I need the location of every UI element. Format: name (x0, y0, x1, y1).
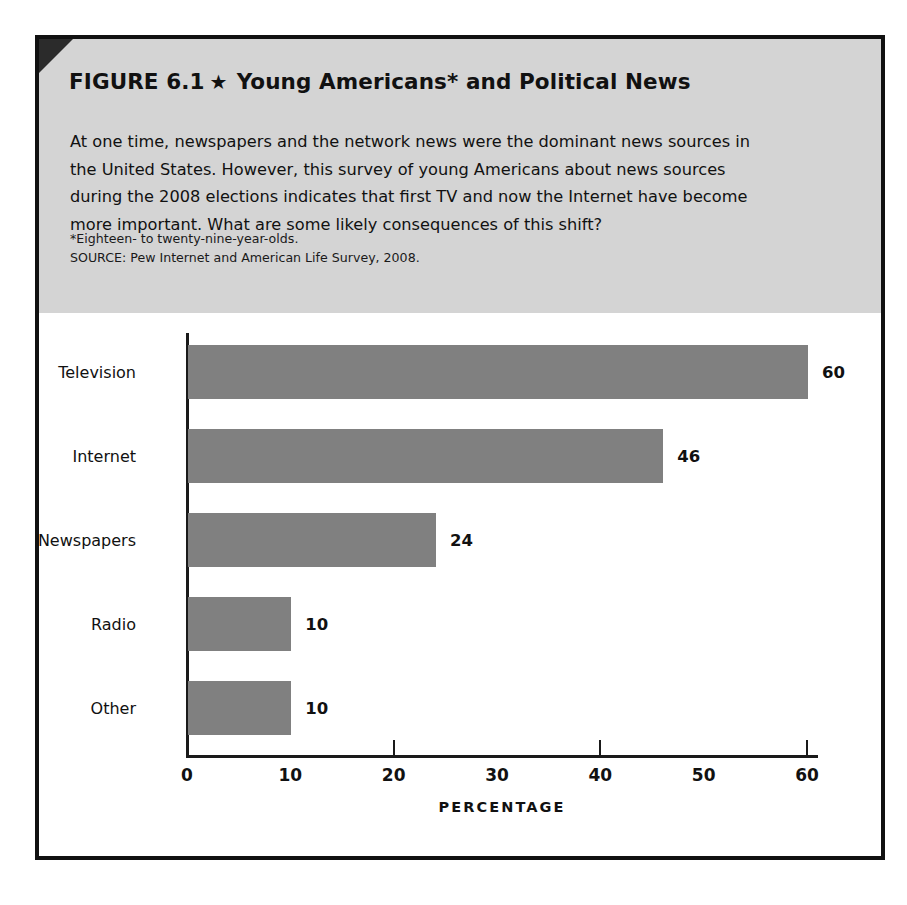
bar-value-label: 10 (305, 615, 328, 634)
bar-rect (188, 429, 663, 483)
figure-frame: FIGURE 6.1★Young Americans* and Politica… (35, 35, 885, 860)
x-tick-label: 10 (278, 765, 302, 785)
figure-source: SOURCE: Pew Internet and American Life S… (70, 249, 420, 268)
bar-row: Newspapers24 (39, 513, 881, 567)
bar-row: Television60 (39, 345, 881, 399)
bar-value-label: 60 (822, 363, 845, 382)
bar-rect (188, 597, 291, 651)
x-tick-label: 50 (692, 765, 716, 785)
figure-number: FIGURE 6.1 (69, 69, 205, 94)
figure-footnote: *Eighteen- to twenty-nine-year-olds. (70, 230, 420, 249)
bar-value-label: 24 (450, 531, 473, 550)
bar-rect (188, 681, 291, 735)
bar-row: Other10 (39, 681, 881, 735)
bar-category-label: Radio (91, 615, 136, 634)
bar-category-label: Other (91, 699, 136, 718)
figure-description: At one time, newspapers and the network … (70, 128, 770, 238)
corner-fold-decoration (39, 39, 73, 73)
bar-row: Internet46 (39, 429, 881, 483)
x-axis-line (186, 755, 818, 758)
x-tick-mark (806, 740, 808, 755)
bar-category-label: Internet (72, 447, 136, 466)
bar-category-label: Television (58, 363, 136, 382)
bar-value-label: 46 (677, 447, 700, 466)
bar-rect (188, 345, 808, 399)
x-tick-label: 30 (485, 765, 509, 785)
x-tick-label: 20 (382, 765, 406, 785)
star-icon: ★ (205, 70, 233, 94)
bar-row: Radio10 (39, 597, 881, 651)
bar-chart: Television60Internet46Newspapers24Radio1… (39, 313, 881, 856)
x-tick-label: 40 (588, 765, 612, 785)
x-tick-label: 60 (795, 765, 819, 785)
figure-title-text: Young Americans* and Political News (233, 69, 691, 94)
figure-title: FIGURE 6.1★Young Americans* and Politica… (69, 69, 691, 94)
x-axis-title: PERCENTAGE (186, 799, 818, 815)
x-tick-mark (599, 740, 601, 755)
figure-notes: *Eighteen- to twenty-nine-year-olds. SOU… (70, 230, 420, 267)
bar-value-label: 10 (305, 699, 328, 718)
x-tick-mark (393, 740, 395, 755)
bar-category-label: Newspapers (38, 531, 136, 550)
figure-header-band: FIGURE 6.1★Young Americans* and Politica… (39, 39, 881, 313)
x-tick-label: 0 (181, 765, 193, 785)
bar-rect (188, 513, 436, 567)
